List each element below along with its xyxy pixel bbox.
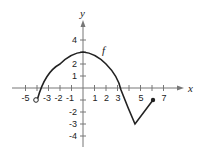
y-tick-label: 1 bbox=[72, 71, 77, 81]
y-tick-label: -2 bbox=[69, 107, 77, 117]
y-axis-label: y bbox=[79, 7, 85, 19]
x-tick-label: 5 bbox=[138, 93, 143, 103]
function-label: f bbox=[102, 44, 107, 56]
x-tick-label: 1 bbox=[92, 93, 97, 103]
y-axis-arrow-icon bbox=[81, 20, 86, 27]
open-endpoint-icon bbox=[34, 98, 39, 103]
x-tick-label: 7 bbox=[161, 93, 166, 103]
x-tick-label: -1 bbox=[66, 93, 74, 103]
x-tick-label: 3 bbox=[115, 93, 120, 103]
function-graph: -5 -3 -2 -1 1 2 3 5 7 4 2 1 -2 -3 -4 x y… bbox=[0, 0, 204, 158]
x-tick-label: 2 bbox=[104, 93, 109, 103]
closed-endpoint-icon bbox=[151, 98, 155, 102]
x-axis-arrow-icon bbox=[177, 86, 184, 91]
y-tick-label: 4 bbox=[72, 35, 77, 45]
x-axis-label: x bbox=[187, 82, 193, 94]
y-tick-label: -3 bbox=[69, 119, 77, 129]
x-tick-label: -5 bbox=[21, 93, 29, 103]
x-tick-label: -3 bbox=[43, 93, 51, 103]
y-tick-label: 2 bbox=[72, 59, 77, 69]
y-tick-label: -4 bbox=[69, 131, 77, 141]
x-tick-label: -2 bbox=[54, 93, 62, 103]
